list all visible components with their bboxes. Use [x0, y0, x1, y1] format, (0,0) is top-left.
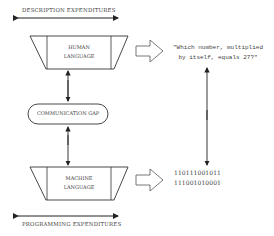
binary-line2: 111001010001 — [174, 178, 221, 188]
machine-language-example: 110111001011 111001010001 — [174, 168, 221, 188]
machine-label-line2: LANGUAGE — [47, 183, 111, 192]
machine-label-line1: MACHINE — [47, 174, 111, 183]
description-expenditures-label: DESCRIPTION EXPENDITURES — [22, 7, 116, 13]
example-line1: "Which number, multiplied — [168, 43, 268, 53]
human-label-line1: HUMAN — [47, 43, 111, 52]
human-language-example: "Which number, multiplied by itself, equ… — [168, 43, 268, 63]
programming-expenditures-label: PROGRAMMING EXPENDITURES — [22, 221, 121, 227]
example-line2: by itself, equals 27?" — [168, 53, 268, 63]
human-language-label: HUMAN LANGUAGE — [47, 43, 111, 61]
machine-language-label: MACHINE LANGUAGE — [47, 174, 111, 192]
diagram-canvas — [0, 0, 274, 236]
binary-line1: 110111001011 — [174, 168, 221, 178]
human-label-line2: LANGUAGE — [47, 52, 111, 61]
human-output-arrow — [136, 40, 163, 62]
machine-output-arrow — [136, 169, 163, 191]
communication-gap-label: COMMUNICATION GAP — [28, 109, 108, 118]
